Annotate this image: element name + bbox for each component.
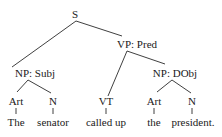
- node-n-2: N: [188, 95, 196, 107]
- edge-npsubj-n: [28, 80, 51, 93]
- node-art-1: Art: [9, 95, 24, 107]
- node-n-1: N: [49, 95, 57, 107]
- node-art-2: Art: [147, 95, 162, 107]
- edge-vp-npdobj: [127, 51, 165, 64]
- word-the-2: the: [147, 116, 161, 128]
- edge-npdobj-art: [157, 80, 172, 92]
- node-vp-pred: VP: Pred: [117, 38, 158, 50]
- edge-s-npsubj: [12, 21, 76, 67]
- edge-npsubj-art: [17, 80, 28, 92]
- node-np-subj: NP: Subj: [15, 67, 55, 79]
- edge-npdobj-n: [172, 80, 191, 93]
- word-the: The: [7, 116, 24, 128]
- word-senator: senator: [37, 116, 69, 128]
- edge-vp-vt: [108, 51, 127, 96]
- edge-s-vp: [76, 21, 122, 36]
- word-president: president.: [171, 116, 214, 128]
- syntax-tree: S VP: Pred NP: Subj NP: DObj Art N VT Ar…: [0, 0, 222, 137]
- node-np-dobj: NP: DObj: [153, 67, 197, 79]
- node-s: S: [72, 8, 78, 20]
- node-vt: VT: [99, 95, 114, 107]
- word-called-up: called up: [86, 116, 127, 128]
